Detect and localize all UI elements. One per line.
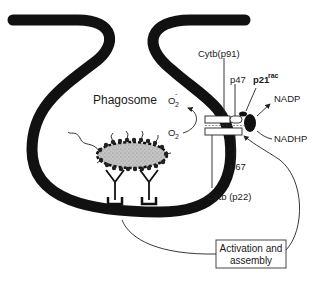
activation-label-line2: assembly (230, 255, 272, 266)
bacterium (68, 131, 171, 171)
p67-label: p67 (230, 161, 246, 172)
superoxide-label: O 2 - (168, 90, 179, 108)
nadp-label: NADP (274, 93, 300, 104)
p21rac-label: p21 rac (253, 72, 279, 85)
phagosome-label: Phagosome (93, 93, 157, 107)
activation-label-line1: Activation and (220, 243, 283, 254)
nadhp-label: NADHP (274, 133, 307, 144)
receptor-right (140, 170, 158, 204)
p47-label: p47 (230, 74, 246, 85)
signal-line-left (122, 220, 216, 254)
receptor-left (106, 170, 124, 204)
p67-subunit (244, 114, 256, 132)
nadp-arrow (257, 104, 270, 116)
nadph-oxidase-diagram: Phagosome O 2 - O 2 Cytb(p91) p47 p21 ra… (0, 0, 318, 283)
svg-text:rac: rac (268, 72, 279, 79)
oxygen-label: O 2 (168, 127, 179, 140)
flagellum-icon (68, 132, 100, 152)
o2-conversion-arrow (183, 108, 196, 133)
p21rac-dot (239, 112, 247, 117)
cytb-p22-label: Cytb (p22) (207, 191, 251, 202)
svg-text:2: 2 (175, 101, 179, 108)
signal-arrow-right (244, 136, 300, 250)
cytb-p91-label: Cytb(p91) (198, 48, 240, 59)
svg-text:2: 2 (175, 133, 179, 140)
svg-text:-: - (175, 90, 178, 97)
nadhp-curve (257, 131, 272, 139)
